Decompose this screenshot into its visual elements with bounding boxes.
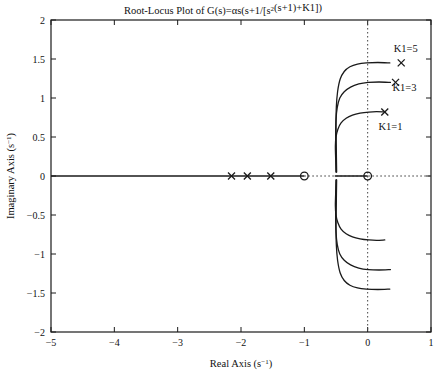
gain-annotation-label: K1=3: [392, 82, 416, 93]
y-tick-label: −1: [34, 249, 45, 260]
x-tick-label: −1: [299, 337, 310, 348]
y-tick-label: 0: [40, 171, 45, 182]
gain-annotation-label: K1=5: [394, 43, 418, 54]
y-tick-label: −2: [34, 327, 45, 338]
root-locus-figure: Root-Locus Plot of G(s)=αs(s+1/[s2(s+1)+…: [0, 0, 446, 380]
y-tick-label: 1: [40, 93, 45, 104]
x-tick-label: −5: [46, 337, 57, 348]
y-axis-label: Imaginary Axis (s−1): [5, 132, 18, 219]
figure-background: [0, 0, 446, 380]
x-tick-label: 0: [365, 337, 370, 348]
y-tick-label: 2: [40, 15, 45, 26]
x-tick-label: −4: [109, 337, 120, 348]
x-tick-label: 1: [429, 337, 434, 348]
x-tick-label: −3: [172, 337, 183, 348]
y-tick-label: −1.5: [27, 288, 45, 299]
y-tick-label: −0.5: [27, 210, 45, 221]
y-tick-label: 0.5: [33, 132, 46, 143]
gain-annotation-label: K1=1: [378, 121, 402, 132]
y-tick-label: 1.5: [33, 54, 46, 65]
x-tick-label: −2: [236, 337, 247, 348]
plot-canvas: Root-Locus Plot of G(s)=αs(s+1/[s2(s+1)+…: [0, 0, 446, 380]
